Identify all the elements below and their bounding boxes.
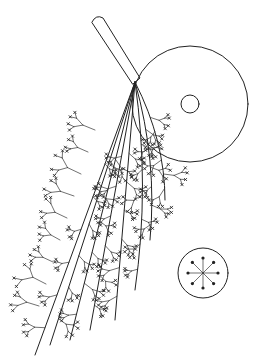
inset-cross-section bbox=[178, 248, 228, 298]
large-disc bbox=[132, 46, 248, 162]
branching-filaments bbox=[9, 82, 189, 355]
botanical-diagram bbox=[0, 0, 260, 358]
central-pore bbox=[181, 95, 199, 113]
stalk bbox=[92, 17, 140, 84]
